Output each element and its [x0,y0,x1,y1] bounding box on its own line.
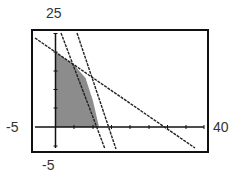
graph-calculator-window: 25 -5 40 -5 [0,0,244,180]
plot-area [0,0,244,180]
